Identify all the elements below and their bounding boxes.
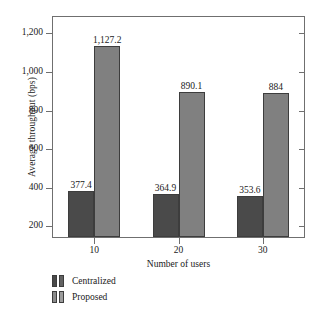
legend-item-centralized: Centralized <box>52 273 116 289</box>
legend-label-proposed: Proposed <box>72 292 107 303</box>
bar-proposed-20 <box>179 92 205 237</box>
legend-label-centralized: Centralized <box>72 276 116 287</box>
chart-legend: Centralized Proposed <box>52 273 116 305</box>
bar-value-label: 1,127.2 <box>77 35 137 45</box>
bar-chart-figure: Average throughput (bps) 2004006008001,0… <box>0 0 321 318</box>
legend-swatch-centralized-icon <box>52 275 65 287</box>
bar-value-label: 353.6 <box>220 185 280 195</box>
bar-value-label: 884 <box>246 82 306 92</box>
bar-centralized-30 <box>237 196 263 237</box>
bar-value-label: 890.1 <box>162 81 222 91</box>
y-tick-mark <box>46 72 52 73</box>
y-tick-mark <box>46 111 52 112</box>
y-tick-label: 1,000 <box>0 67 43 77</box>
bar-value-label: 364.9 <box>136 183 196 193</box>
legend-swatch-proposed-icon <box>52 291 65 303</box>
y-tick-mark <box>46 226 52 227</box>
y-tick-mark <box>46 33 52 34</box>
y-tick-label: 200 <box>0 221 43 231</box>
bars-layer <box>53 17 304 237</box>
bar-proposed-30 <box>263 93 289 237</box>
y-axis-title: Average throughput (bps) <box>27 32 37 222</box>
x-tick-label: 30 <box>243 245 283 256</box>
bar-centralized-10 <box>68 191 94 237</box>
y-tick-label: 400 <box>0 183 43 193</box>
bar-proposed-10 <box>94 46 120 237</box>
bar-value-label: 377.4 <box>51 180 111 190</box>
y-tick-label: 1,200 <box>0 28 43 38</box>
x-tick-mark <box>263 238 264 244</box>
legend-item-proposed: Proposed <box>52 289 116 305</box>
y-tick-label: 800 <box>0 106 43 116</box>
x-tick-mark <box>179 238 180 244</box>
x-tick-mark <box>94 238 95 244</box>
x-axis-title: Number of users <box>52 259 305 269</box>
x-tick-label: 20 <box>159 245 199 256</box>
bar-centralized-20 <box>153 194 179 237</box>
x-tick-label: 10 <box>74 245 114 256</box>
y-tick-label: 600 <box>0 144 43 154</box>
y-tick-mark <box>46 149 52 150</box>
